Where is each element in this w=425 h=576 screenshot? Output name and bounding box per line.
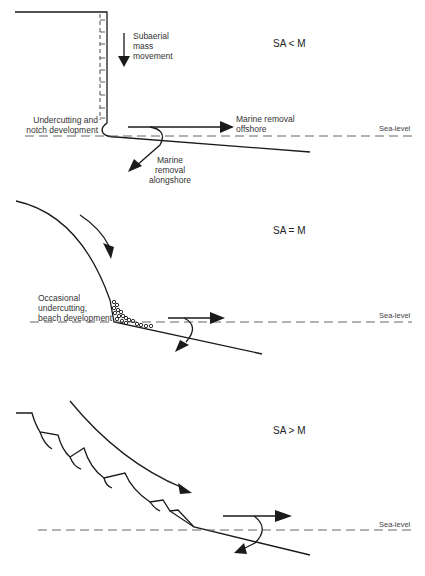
condition-label: SA < M [273, 38, 306, 49]
offshore-label: Marine removal offshore [236, 114, 295, 134]
label-line: beach development [38, 313, 112, 323]
label-line: Occasional [38, 293, 112, 303]
label-line: Marine [140, 155, 200, 165]
condition-label: SA > M [273, 425, 306, 436]
cliff-profile [16, 201, 262, 354]
subaerial-label: Subaerial mass movement [133, 31, 173, 61]
label-line: Undercutting and [8, 115, 98, 125]
cliff-profiles-diagram [0, 0, 425, 576]
label-line: undercutting, [38, 303, 112, 313]
label-line: Marine removal [236, 114, 295, 124]
label-line: Subaerial [133, 31, 173, 41]
label-line: movement [133, 51, 173, 61]
panel-sa-greater-than-m [16, 401, 412, 555]
subaerial-arrow-icon [80, 215, 109, 246]
sea-level-label: Sea-level [379, 520, 410, 529]
condition-label: SA = M [273, 225, 306, 236]
label-line: notch development [8, 125, 98, 135]
panel-sa-less-than-m [15, 12, 412, 172]
sea-level-label: Sea-level [379, 124, 410, 133]
label-line: alongshore [140, 175, 200, 185]
panel-sa-equals-m [16, 201, 412, 354]
alongshore-label: Marine removal alongshore [140, 155, 200, 185]
label-line: offshore [236, 124, 295, 134]
label-line: mass [133, 41, 173, 51]
sea-level-label: Sea-level [379, 311, 410, 320]
cliff-profile-stepped [16, 413, 310, 555]
occasional-undercutting-label: Occasional undercutting, beach developme… [38, 293, 112, 323]
undercutting-label: Undercutting and notch development [8, 115, 98, 135]
label-line: removal [140, 165, 200, 175]
